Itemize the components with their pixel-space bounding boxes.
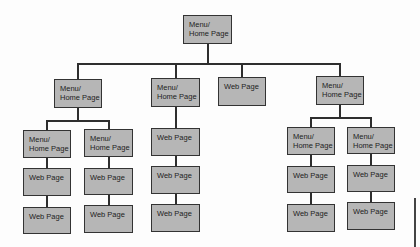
connector-c2-a	[108, 157, 110, 168]
connector-to-m4	[339, 63, 341, 76]
connector-c6-b	[370, 192, 372, 202]
node-menu-home-2: Menu/ Home Page	[151, 78, 200, 107]
node-c3-1: Web Page	[151, 166, 200, 194]
node-c2-1: Web Page	[84, 168, 133, 195]
connector-c5-a	[310, 155, 312, 166]
node-c3-0: Web Page	[151, 128, 200, 156]
node-menu-home-4: Menu/ Home Page	[316, 76, 364, 105]
connector-to-m2	[175, 63, 177, 78]
node-c1-2: Web Page	[23, 207, 71, 234]
node-c6-0: Menu/ Home Page	[347, 127, 395, 154]
connector-m4-bar	[310, 117, 371, 119]
connector-to-w3	[241, 63, 243, 77]
page-edge-divider	[414, 198, 416, 247]
connector-c3-a	[175, 156, 177, 166]
node-c1-0: Menu/ Home Page	[23, 130, 71, 158]
connector-root-down	[207, 43, 209, 64]
connector-c5-b	[310, 193, 312, 204]
node-web-page-3: Web Page	[218, 77, 266, 106]
connector-c1-a	[46, 158, 48, 168]
connector-c2-b	[108, 195, 110, 205]
connector-to-c5	[310, 117, 312, 127]
connector-to-c2	[108, 120, 110, 129]
connector-m2-to-c3	[175, 107, 177, 128]
connector-m1-bar	[46, 120, 108, 122]
node-c5-1: Web Page	[287, 166, 335, 193]
connector-c3-b	[175, 194, 177, 204]
connector-c6-a	[370, 154, 372, 165]
connector-c1-b	[46, 196, 48, 207]
node-c5-0: Menu/ Home Page	[287, 127, 335, 155]
node-menu-home-1: Menu/ Home Page	[54, 79, 102, 108]
node-c1-1: Web Page	[23, 168, 71, 196]
connector-to-c1	[46, 120, 48, 130]
node-c2-2: Web Page	[84, 205, 133, 233]
connector-level1-bar	[77, 63, 340, 65]
node-c6-1: Web Page	[347, 165, 395, 192]
node-c6-2: Web Page	[347, 202, 395, 230]
node-root-menu-home: Menu/ Home Page	[183, 15, 232, 44]
node-c3-2: Web Page	[151, 204, 200, 232]
node-c5-2: Web Page	[287, 204, 335, 232]
node-c2-0: Menu/ Home Page	[84, 129, 133, 157]
connector-to-m1	[77, 63, 79, 79]
connector-to-c6	[370, 117, 372, 127]
